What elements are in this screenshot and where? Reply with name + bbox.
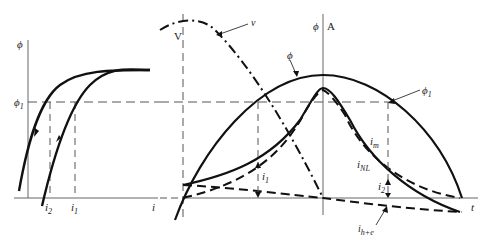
voltage-axis-label: V — [174, 30, 182, 42]
waveform-graph: V v ϕ A ϕ ϕ1 im iNL i1 i2 ih+e t — [160, 14, 478, 237]
phi1-curve-label: ϕ1 — [422, 84, 432, 99]
voltage-leader — [220, 24, 248, 34]
left-x-axis-label: i — [152, 201, 155, 213]
i2-arrow-up-icon — [385, 179, 391, 185]
flux-curve-label: ϕ — [287, 49, 293, 61]
left-i1-label: i1 — [71, 201, 78, 216]
current-axis-label: A — [327, 20, 335, 32]
phi1-leader — [392, 90, 420, 101]
voltage-curve — [160, 21, 323, 198]
hysteresis-descending-branch — [19, 70, 150, 191]
right-i2-label: i2 — [378, 180, 385, 195]
flux-leader-arrow-icon — [293, 71, 299, 77]
time-axis-label: t — [471, 201, 475, 213]
left-i2-label: i2 — [45, 201, 52, 216]
magnetizing-current-curve — [183, 90, 460, 198]
left-y-axis-label: ϕ — [17, 38, 23, 50]
magnetizing-current-label: im — [370, 135, 379, 150]
right-i1-label: i1 — [262, 170, 269, 185]
core-loss-leader-arrow-icon — [382, 206, 388, 213]
i1-arrow-down-icon — [255, 192, 261, 198]
core-loss-current-label: ih+e — [358, 223, 374, 237]
no-load-current-label: iNL — [357, 158, 370, 173]
voltage-curve-label: v — [251, 17, 256, 28]
core-loss-leader — [376, 210, 385, 225]
flux-axis-label: ϕ — [313, 20, 319, 32]
transformer-no-load-current-diagram: ϕ ϕ1 i2 i1 i — [0, 0, 490, 242]
left-phi1-label: ϕ1 — [14, 96, 24, 111]
i2-arrow-down-icon — [385, 193, 391, 198]
hysteresis-graph: ϕ ϕ1 i2 i1 i — [14, 38, 160, 216]
